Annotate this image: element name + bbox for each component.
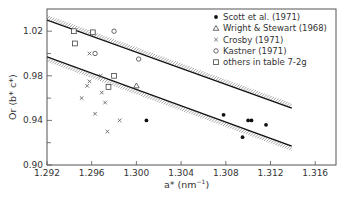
x-tick-label: 1.300 (124, 168, 150, 178)
data-point (85, 84, 89, 88)
legend-marker-icon (214, 15, 218, 19)
data-point (112, 73, 117, 78)
legend-label: Wright & Stewart (1968) (223, 23, 327, 33)
data-point (264, 123, 268, 127)
legend-label: others in table 7-2g (223, 57, 307, 67)
data-point (246, 119, 250, 123)
y-axis: 0.900.940.981.02 (23, 26, 52, 170)
x-tick-label: 1.304 (168, 168, 194, 178)
data-point (250, 119, 254, 123)
data-point (118, 119, 122, 123)
x-axis-title: a* (nm−1) (164, 178, 209, 190)
legend-label: Crosby (1971) (223, 35, 283, 45)
data-point (112, 29, 116, 33)
data-point (106, 85, 111, 90)
legend-label: Kastner (1971) (223, 46, 286, 56)
data-point (241, 135, 245, 139)
x-tick-label: 1.296 (79, 168, 105, 178)
y-tick-label: 1.02 (23, 26, 43, 36)
data-point (100, 91, 104, 95)
legend-marker-icon (213, 26, 219, 31)
x-tick-label: 1.308 (213, 168, 239, 178)
data-point (134, 83, 140, 88)
x-axis: 1.2921.2961.3001.3041.3081.3121.316 (34, 161, 328, 178)
data-point (71, 29, 76, 34)
legend: Scott et al. (1971)Wright & Stewart (196… (213, 12, 327, 67)
legend-label: Scott et al. (1971) (223, 12, 300, 22)
data-point (73, 41, 78, 46)
data-point (222, 113, 226, 117)
data-point (106, 130, 110, 134)
y-tick-label: 0.90 (23, 160, 43, 170)
y-tick-label: 0.94 (23, 115, 43, 125)
y-tick-label: 0.98 (23, 71, 43, 81)
data-point (93, 51, 97, 55)
data-point (103, 101, 107, 105)
legend-marker-icon (214, 38, 218, 42)
data-point (93, 112, 97, 116)
lower-bound-line (47, 57, 292, 146)
legend-marker-icon (214, 49, 218, 53)
legend-marker-icon (214, 60, 219, 65)
data-point (145, 119, 149, 123)
data-point (80, 96, 84, 100)
x-tick-label: 1.316 (302, 168, 328, 178)
data-point (88, 80, 92, 84)
lower-bound-line-hatch (47, 57, 292, 151)
x-tick-label: 1.312 (258, 168, 284, 178)
data-point (90, 30, 95, 35)
y-axis-title: Or (b* c*) (7, 74, 18, 120)
data-point (88, 52, 92, 56)
data-point (136, 57, 140, 61)
scatter-chart: 1.2921.2961.3001.3041.3081.3121.316 0.90… (0, 0, 350, 201)
